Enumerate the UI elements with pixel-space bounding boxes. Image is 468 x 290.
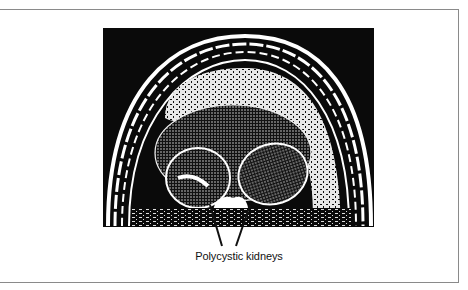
- scan-image: [103, 28, 374, 227]
- scan-illustration: [103, 28, 374, 227]
- figure-caption: Polycystic kidneys: [0, 250, 468, 262]
